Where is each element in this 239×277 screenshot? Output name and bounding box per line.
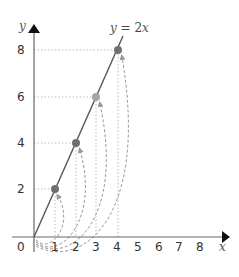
function-label: y = 2x [109, 21, 149, 35]
axes [12, 24, 230, 252]
svg-text:7: 7 [175, 240, 183, 254]
mapping-arrows [36, 57, 128, 252]
x-axis-label: x [219, 240, 226, 254]
svg-text:3: 3 [92, 240, 100, 254]
chart-canvas: y x 0 1 2 3 4 5 6 7 8 2 4 6 8 y = 2x [0, 0, 239, 277]
y-axis-label: y [18, 19, 26, 33]
svg-text:6: 6 [17, 90, 25, 104]
svg-text:2: 2 [17, 182, 25, 196]
function-line [34, 36, 123, 237]
y-tick-labels: 2 4 6 8 [17, 43, 25, 196]
svg-text:4: 4 [17, 136, 25, 150]
svg-text:6: 6 [155, 240, 163, 254]
svg-text:8: 8 [17, 43, 25, 57]
svg-text:4: 4 [113, 240, 121, 254]
svg-text:2: 2 [72, 240, 80, 254]
svg-text:8: 8 [196, 240, 204, 254]
origin-label: 0 [17, 240, 25, 254]
svg-text:1: 1 [51, 240, 59, 254]
y-axis-arrow-icon [28, 24, 40, 33]
x-tick-labels: 1 2 3 4 5 6 7 8 [51, 240, 204, 254]
svg-text:5: 5 [134, 240, 142, 254]
